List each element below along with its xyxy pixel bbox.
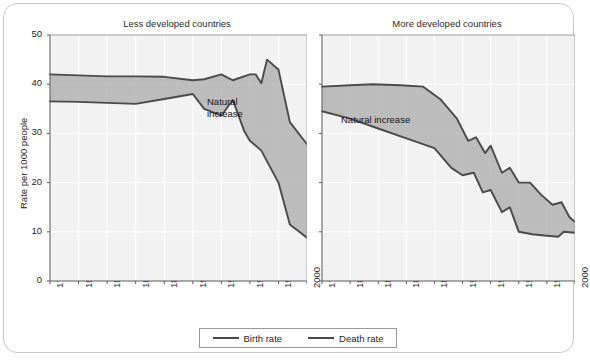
legend-item-birth-rate: Birth rate — [213, 333, 283, 344]
natural-increase-label-right: Natural increase — [341, 114, 410, 126]
legend: Birth rate Death rate — [199, 328, 397, 348]
y-tick-label: 40 — [22, 77, 42, 88]
y-tick-label: 50 — [22, 28, 42, 39]
y-tick-label: 10 — [22, 225, 42, 236]
panel-title-left: Less developed countries — [47, 18, 307, 29]
panel-title-right: More developed countries — [319, 18, 575, 29]
chart-left — [47, 32, 307, 284]
x-tick-label: 2000 — [579, 267, 590, 288]
figure-frame: Rate per 1000 people Less developed coun… — [3, 3, 574, 353]
y-tick-label: 20 — [22, 176, 42, 187]
legend-label-death-rate: Death rate — [339, 333, 383, 344]
legend-label-birth-rate: Birth rate — [244, 333, 283, 344]
legend-line-icon — [308, 337, 334, 339]
y-tick-label: 30 — [22, 126, 42, 137]
y-tick-label: 0 — [22, 274, 42, 285]
natural-increase-label-left: Natural increase — [207, 96, 243, 119]
legend-item-death-rate: Death rate — [308, 333, 383, 344]
chart-right — [319, 32, 575, 284]
legend-line-icon — [213, 337, 239, 339]
